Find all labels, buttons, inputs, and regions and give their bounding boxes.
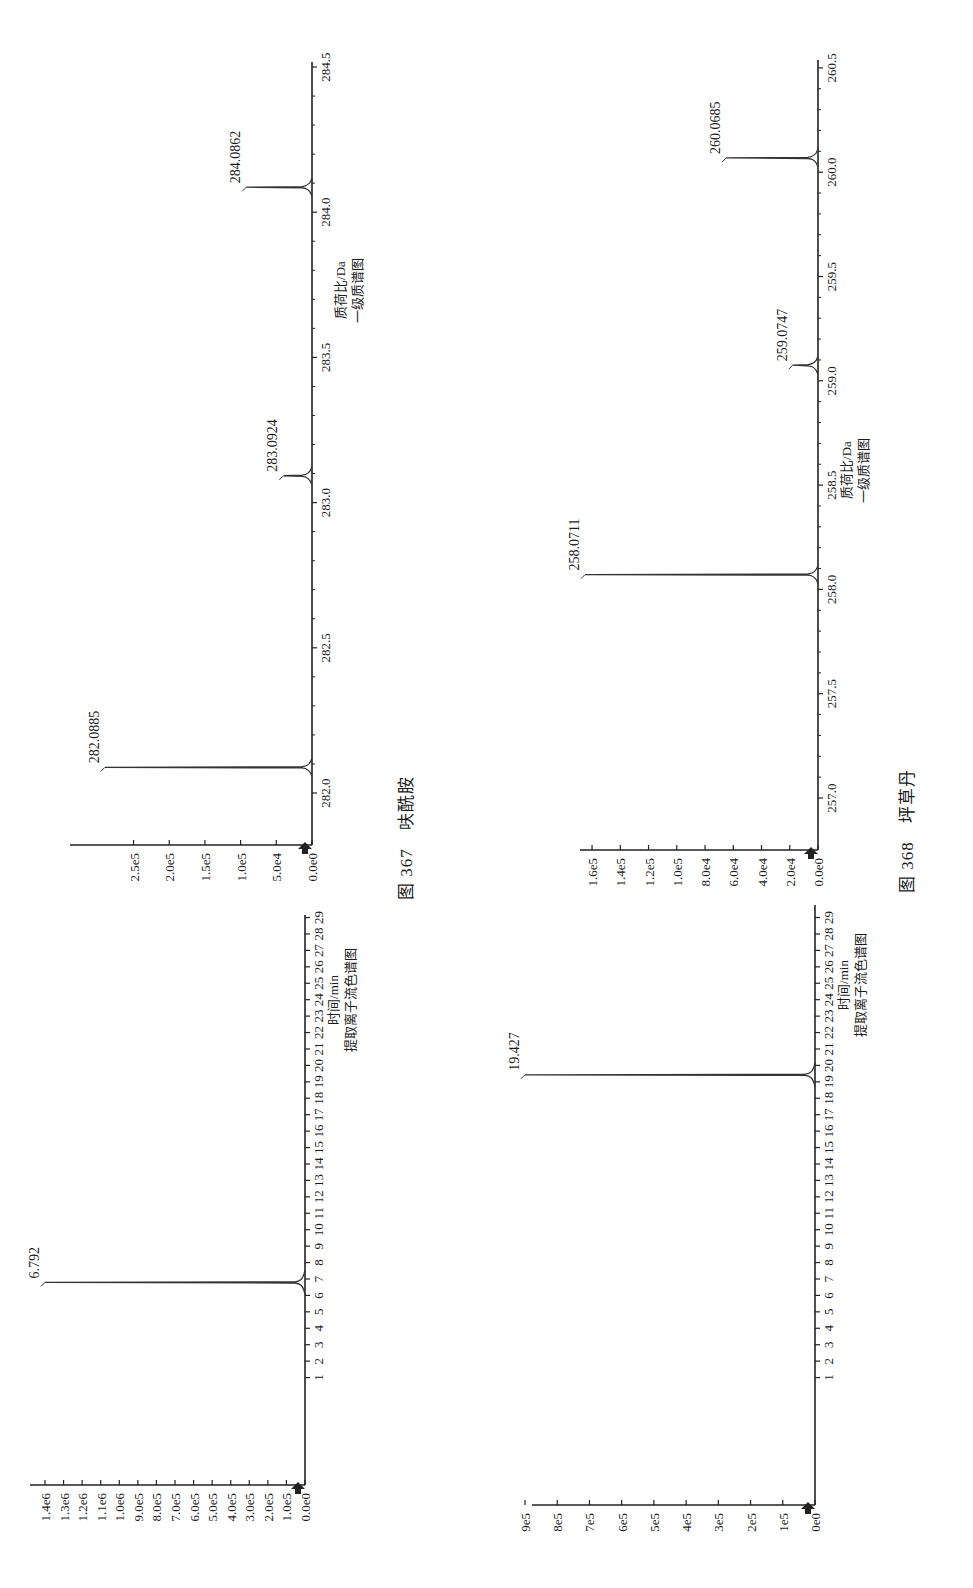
- x-tick-label: 5: [311, 1309, 326, 1316]
- peak-leader: [242, 187, 246, 191]
- baseline-marker-icon: [291, 1482, 305, 1494]
- chart-fig368-mass-spectrum: 257.0257.5258.0258.5259.0259.5260.0260.5…: [567, 53, 871, 886]
- peak-leader: [41, 1282, 45, 1286]
- x-tick-label: 6: [311, 1292, 326, 1299]
- y-tick-label: 0.0e0: [811, 858, 826, 887]
- y-tick-label: 4.0e4: [755, 858, 770, 887]
- y-tick-label: 6.0e5: [187, 1493, 202, 1522]
- y-tick-label: 3e5: [711, 1513, 726, 1532]
- y-tick-label: 2.0e4: [783, 858, 798, 887]
- y-tick-label: 8.0e4: [698, 858, 713, 887]
- y-tick-label: 1.0e5: [670, 858, 685, 887]
- chart-fig367-chromatogram: 1234567891011121314151617181920212223242…: [27, 911, 358, 1522]
- x-tick-label: 26: [311, 960, 326, 974]
- y-tick-label: 5e5: [647, 1513, 662, 1532]
- x-tick-label: 29: [821, 911, 836, 924]
- x-tick-label: 6: [821, 1292, 836, 1299]
- x-tick-label: 27: [311, 943, 326, 957]
- x-tick-label: 10: [311, 1223, 326, 1236]
- peak-trace: [105, 758, 312, 776]
- peak-leader: [101, 767, 105, 771]
- peak-label: 284.0862: [228, 131, 243, 184]
- x-tick-label: 7: [311, 1275, 326, 1282]
- figure-caption-368: 图 368 坪草丹: [898, 769, 917, 893]
- x-tick-label: 28: [821, 927, 836, 940]
- x-tick-label: 9: [311, 1243, 326, 1250]
- peak-label: 283.0924: [265, 419, 280, 472]
- x-tick-label: 23: [821, 1010, 836, 1023]
- x-tick-label: 259.0: [824, 366, 839, 395]
- y-tick-label: 5.0e5: [205, 1493, 220, 1522]
- x-tick-label: 22: [311, 1026, 326, 1039]
- x-tick-label: 19: [821, 1075, 836, 1088]
- baseline-marker-icon: [804, 847, 818, 859]
- x-tick-label: 13: [821, 1174, 836, 1187]
- x-tick-label: 20: [311, 1059, 326, 1072]
- peak-trace: [793, 356, 818, 374]
- x-tick-label: 11: [821, 1207, 836, 1220]
- x-tick-label: 12: [311, 1190, 326, 1203]
- x-tick-label: 20: [821, 1059, 836, 1072]
- x-tick-label: 11: [311, 1207, 326, 1220]
- baseline-marker-icon: [801, 1502, 815, 1514]
- chart-title: 提取离子流色谱图: [343, 948, 358, 1052]
- x-tick-label: 26: [821, 960, 836, 974]
- x-tick-label: 260.5: [824, 53, 839, 82]
- x-tick-label: 14: [311, 1157, 326, 1171]
- y-tick-label: 0.0e0: [305, 853, 320, 882]
- x-tick-label: 24: [311, 993, 326, 1007]
- x-tick-label: 282.5: [318, 633, 333, 662]
- x-tick-label: 25: [311, 977, 326, 990]
- x-tick-label: 24: [821, 993, 836, 1007]
- x-tick-label: 257.5: [824, 679, 839, 708]
- y-tick-label: 9e5: [518, 1513, 533, 1532]
- y-tick-label: 5.0e4: [269, 853, 284, 882]
- chart-title: 一级质谱图: [350, 258, 365, 323]
- peak-trace: [525, 1063, 815, 1087]
- x-tick-label: 16: [821, 1124, 836, 1138]
- peak-leader: [581, 575, 585, 579]
- peak-leader: [789, 365, 793, 369]
- x-tick-label: 284.0: [318, 198, 333, 227]
- page-canvas: 1234567891011121314151617181920212223242…: [0, 0, 973, 1588]
- y-tick-label: 1.0e5: [234, 853, 249, 882]
- y-tick-label: 4e5: [679, 1513, 694, 1532]
- x-axis-title: 时间/min: [326, 975, 341, 1025]
- peak-label: 6.792: [27, 1247, 42, 1279]
- y-tick-label: 8.0e5: [149, 1493, 164, 1522]
- peak-label: 259.0747: [775, 309, 790, 362]
- y-tick-label: 7.0e5: [168, 1493, 183, 1522]
- x-tick-label: 259.5: [824, 262, 839, 291]
- y-tick-label: 3.0e5: [242, 1493, 257, 1522]
- peak-trace: [45, 1270, 305, 1294]
- x-tick-label: 14: [821, 1157, 836, 1171]
- peak-leader: [521, 1075, 525, 1079]
- y-tick-label: 1.0e6: [112, 1493, 127, 1522]
- x-tick-label: 19: [311, 1075, 326, 1088]
- x-tick-label: 2: [311, 1358, 326, 1365]
- y-tick-label: 1.2e5: [642, 858, 657, 887]
- x-axis-title: 质荷比/Da: [333, 261, 348, 319]
- peak-trace: [585, 566, 818, 584]
- y-tick-label: 0e0: [808, 1513, 823, 1532]
- peak-label: 260.0685: [708, 101, 723, 154]
- x-tick-label: 27: [821, 943, 836, 957]
- x-tick-label: 18: [821, 1092, 836, 1105]
- x-tick-label: 5: [821, 1309, 836, 1316]
- x-tick-label: 3: [311, 1341, 326, 1348]
- x-tick-label: 283.0: [318, 488, 333, 517]
- peak-trace: [283, 467, 312, 485]
- y-tick-label: 1.4e6: [38, 1493, 53, 1522]
- x-tick-label: 15: [821, 1141, 836, 1154]
- peak-leader: [722, 158, 726, 162]
- y-tick-label: 2.5e5: [127, 853, 142, 882]
- y-tick-label: 9.0e5: [131, 1493, 146, 1522]
- x-tick-label: 2: [821, 1358, 836, 1365]
- y-tick-label: 1.5e5: [198, 853, 213, 882]
- peak-label: 282.0885: [87, 711, 102, 764]
- x-tick-label: 284.5: [318, 52, 333, 81]
- x-tick-label: 10: [821, 1223, 836, 1236]
- x-tick-label: 12: [821, 1190, 836, 1203]
- x-axis-title: 时间/min: [836, 960, 851, 1010]
- y-tick-label: 2.0e5: [162, 853, 177, 882]
